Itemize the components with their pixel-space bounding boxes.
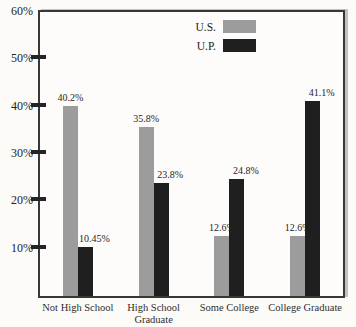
bar-value-label: 10.45% xyxy=(79,233,110,244)
y-axis-label: 60% xyxy=(0,4,33,18)
bar-group: 12.6%41.1% xyxy=(290,101,320,296)
bar-up: 10.45% xyxy=(78,247,93,296)
y-axis-label: 40% xyxy=(0,99,33,113)
bar-chart-figure: 40.2%10.45%35.8%23.8%12.6%24.8%12.6%41.1… xyxy=(0,0,356,327)
bar-us: 40.2% xyxy=(63,106,78,296)
bar-group: 40.2%10.45% xyxy=(63,106,93,296)
bar-us: 12.6% xyxy=(214,236,229,296)
bar-up: 24.8% xyxy=(229,179,244,296)
bar-value-label: 24.8% xyxy=(233,165,259,176)
y-axis-tick xyxy=(31,245,46,249)
x-axis-label: College Graduate xyxy=(260,302,350,314)
y-axis-label: 20% xyxy=(0,193,33,207)
bar-value-label: 23.8% xyxy=(157,169,183,180)
bar-group: 35.8%23.8% xyxy=(139,127,169,296)
y-axis-label: 30% xyxy=(0,146,33,160)
legend-label-us: U.S. xyxy=(174,21,223,33)
legend-swatch-us-icon xyxy=(223,20,256,33)
bar-group: 12.6%24.8% xyxy=(214,179,244,296)
legend-item-up: U.P. xyxy=(174,39,256,52)
legend-item-us: U.S. xyxy=(174,20,256,33)
bar-up: 23.8% xyxy=(154,183,169,296)
legend-label-up: U.P. xyxy=(174,40,223,52)
legend: U.S. U.P. xyxy=(174,20,256,58)
bar-us: 35.8% xyxy=(139,127,154,296)
bar-up: 41.1% xyxy=(305,101,320,296)
bar-value-label: 41.1% xyxy=(309,87,335,98)
y-axis-tick xyxy=(31,197,46,201)
y-axis-tick xyxy=(31,150,46,154)
bar-us: 12.6% xyxy=(290,236,305,296)
y-axis-tick xyxy=(31,55,46,59)
legend-swatch-up-icon xyxy=(223,39,256,52)
y-axis-label: 50% xyxy=(0,51,33,65)
bar-value-label: 40.2% xyxy=(57,92,83,103)
y-axis-label: 10% xyxy=(0,241,33,255)
bar-value-label: 35.8% xyxy=(133,113,159,124)
y-axis-tick xyxy=(31,103,46,107)
